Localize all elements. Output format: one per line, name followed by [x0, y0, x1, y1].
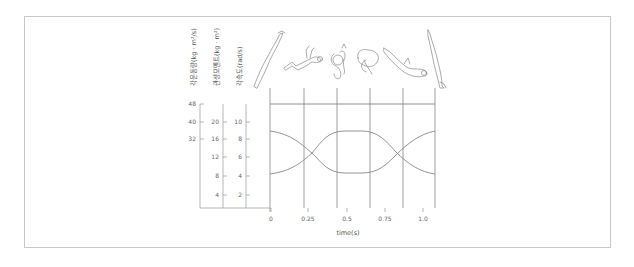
diver-pike-open-icon: [284, 46, 323, 70]
x-tick-label: 0.25: [301, 215, 315, 222]
axis-title-angular-velocity: 각속도(rad/s): [236, 47, 244, 86]
tick-label: 4: [238, 172, 242, 179]
tick-label: 8: [215, 172, 219, 179]
x-tick-label: 0.5: [342, 215, 352, 222]
tick-label: 10: [234, 118, 242, 125]
x-tick-label: 0: [269, 215, 273, 222]
diver-extended-start-icon: [254, 31, 285, 88]
series-moment-of-inertia: [270, 131, 435, 173]
tick-label: 6: [238, 153, 242, 160]
tick-label: 2: [238, 191, 242, 198]
tick-label: 20: [211, 118, 219, 125]
diver-entry-icon: [428, 30, 446, 88]
axis-moment-of-inertia: [223, 104, 227, 208]
tick-label: 8: [238, 135, 242, 142]
x-tick-label: 1.0: [418, 215, 428, 222]
tick-label: 40: [188, 118, 196, 125]
diver-tuck-icon: [331, 44, 346, 79]
tick-label: 32: [188, 135, 196, 142]
diagram-canvas: 각운동량(kg · m²/s) 관성모멘트(kg · m²) 각속도(rad/s…: [0, 0, 634, 267]
axis-angular-velocity: [246, 104, 250, 208]
series-angular-velocity: [270, 131, 435, 174]
axis-title-angular-momentum: 각운동량(kg · m²/s): [190, 28, 198, 86]
x-tick-label: 0.75: [378, 215, 392, 222]
tick-label: 12: [211, 153, 219, 160]
tick-label: 16: [211, 135, 219, 142]
x-axis-label: time(s): [336, 229, 359, 237]
diver-tuck-rotating-icon: [358, 49, 379, 74]
phase-lines: [270, 88, 435, 212]
diver-opening-icon: [384, 48, 427, 77]
tick-label: 48: [188, 100, 196, 107]
x-axis-ticks: [271, 208, 423, 212]
axis-title-moment-of-inertia: 관성모멘트(kg · m²): [212, 28, 221, 86]
axis-angular-momentum: [200, 104, 204, 208]
tick-label: 4: [215, 191, 219, 198]
